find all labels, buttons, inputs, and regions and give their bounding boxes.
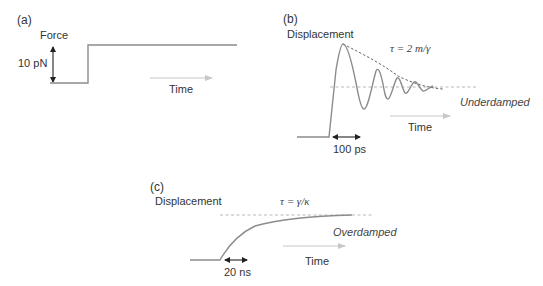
displacement-axis-label-b: Displacement <box>287 28 354 40</box>
tau-overdamped-label: τ = γ/κ <box>280 195 310 207</box>
panel-c-label: (c) <box>150 180 164 194</box>
force-scale-label: 10 pN <box>18 57 47 69</box>
period-scale-label: 100 ps <box>333 143 367 155</box>
time-label-c: Time <box>305 255 329 267</box>
panel-a: (a) Force 10 pN Time <box>17 13 237 95</box>
damping-figure: (a) Force 10 pN Time (b) Displacement τ … <box>0 0 543 286</box>
tau-underdamped-label: τ = 2 m/γ <box>390 42 431 54</box>
displacement-axis-label-c: Displacement <box>155 195 222 207</box>
panel-b-label: (b) <box>283 12 298 26</box>
force-axis-label: Force <box>40 29 68 41</box>
panel-a-label: (a) <box>17 13 32 27</box>
overdamped-response-curve <box>190 215 352 260</box>
overdamped-label: Overdamped <box>333 226 397 238</box>
relaxation-scale-label: 20 ns <box>224 266 251 278</box>
force-step-curve <box>50 45 237 83</box>
underdamped-label: Underdamped <box>460 96 531 108</box>
time-label-a: Time <box>169 83 193 95</box>
panel-c: (c) Displacement τ = γ/κ 20 ns Overdampe… <box>150 180 397 278</box>
time-label-b: Time <box>408 121 432 133</box>
panel-b: (b) Displacement τ = 2 m/γ 100 ps Underd… <box>283 12 531 155</box>
